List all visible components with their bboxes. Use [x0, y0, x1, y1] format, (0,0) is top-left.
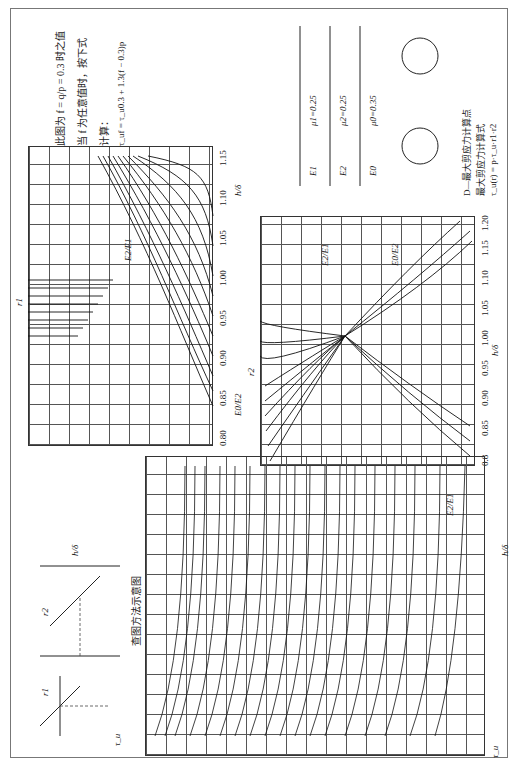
r1-tick-0: 0.80 — [218, 430, 228, 446]
r1-curves — [28, 146, 213, 446]
r2-chart: r2 0.8 0.85 0.90 0.95 1.00 1.05 1.10 1.1… — [260, 216, 500, 466]
r1-tick-5: 1.05 — [218, 230, 228, 246]
method-label-r1: r1 — [40, 688, 50, 696]
tau-curves — [145, 456, 485, 756]
r1-tick-7: 1.15 — [218, 150, 228, 166]
schematic-e2: E2 — [338, 166, 348, 176]
tau-ylabel: τ_u — [490, 746, 500, 758]
schematic-legend-formula: τ_u(r) = p·τ_u·r1·r2 — [486, 124, 500, 196]
schematic-legend-1: D—最大剪应力计算点 — [460, 109, 474, 197]
note-line-3: 计算： — [98, 116, 112, 146]
schematic-mu0: μ0=0.35 — [368, 95, 378, 126]
schematic-mu1: μ1=0.25 — [308, 95, 318, 126]
r2-tick-6: 1.10 — [480, 270, 490, 286]
r1-sub-xlabel: h/δ — [233, 185, 243, 196]
method-label-hd: h/δ — [70, 545, 80, 556]
r2-tick-3: 0.95 — [480, 360, 490, 376]
r2-axis-title: r2 — [246, 368, 256, 376]
method-label-r2: r2 — [40, 608, 50, 616]
r2-tick-1: 0.85 — [480, 420, 490, 436]
rotated-figure: 此图为 f = q/p = 0.3 时之值 当 f 为任意值时，按下式 计算： … — [0, 0, 520, 766]
note-line-1: 此图为 f = q/p = 0.3 时之值 — [54, 31, 68, 146]
r2-curves — [260, 216, 475, 466]
method-diagram: 查图方法示意图 τ_u r1 r2 h/δ — [20, 516, 150, 756]
r1-chart: r1 0.80 0.85 0.90 0.95 1.00 1.05 1.10 1.… — [28, 146, 243, 446]
r2-tick-5: 1.05 — [480, 300, 490, 316]
schematic-e1: E1 — [308, 166, 318, 176]
method-label-tau: τ_u — [112, 734, 122, 746]
r2-legend-a: E2/E1 — [320, 244, 330, 267]
note-formula: τ_uf = τ_u0.3 + 1.3(f − 0.3)p — [114, 42, 128, 146]
note-line-2: 当 f 为任意值时，按下式 — [76, 38, 90, 146]
tau-xlabel: h/δ — [500, 545, 510, 556]
r2-tick-7: 1.15 — [480, 240, 490, 256]
r1-sub-legend: E2/E1 — [123, 239, 133, 262]
r1-tick-3: 0.95 — [218, 310, 228, 326]
schematic-mu2: μ2=0.25 — [338, 95, 348, 126]
r2-y2label: h/δ — [490, 345, 500, 356]
r1-tick-4: 1.00 — [218, 270, 228, 286]
r2-tick-8: 1.20 — [480, 215, 490, 231]
method-diagram-title: 查图方法示意图 — [130, 576, 144, 646]
tau-legend: E2/E1 — [445, 494, 455, 517]
r2-legend-b: E0/E2 — [390, 244, 400, 267]
r2-tick-4: 1.00 — [480, 330, 490, 346]
r1-tick-2: 0.90 — [218, 350, 228, 366]
schematic: E1 μ1=0.25 E2 μ2=0.25 E0 μ0=0.35 D—最大剪应力… — [260, 6, 500, 206]
r1-tick-6: 1.10 — [218, 190, 228, 206]
notes-block: 此图为 f = q/p = 0.3 时之值 当 f 为任意值时，按下式 计算： … — [18, 6, 128, 146]
r1-axis-title: r1 — [14, 298, 24, 306]
tau-chart: τ_u h/δ E2/E1 — [145, 456, 515, 756]
r1-ylabel: E0/E2 — [233, 394, 243, 417]
r2-tick-2: 0.90 — [480, 390, 490, 406]
schematic-e0: E0 — [368, 166, 378, 176]
r1-tick-1: 0.85 — [218, 390, 228, 406]
